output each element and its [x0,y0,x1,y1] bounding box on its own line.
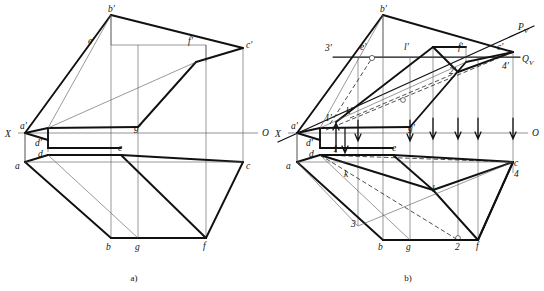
label-g-prime-b: g' [408,123,416,133]
label-b-prime-a: b' [108,4,116,14]
label-g-a: g [135,242,140,252]
dashed-aprime-cprime-aux [326,52,513,130]
marker-point-mid [401,98,406,103]
diagram-a: X O b' e' f' c' a' g' d' d e a c b g f [4,4,269,252]
label-1-prime-b: 1' [325,113,333,123]
axis-label-o-a: O [262,128,269,138]
drawing-root: X O b' e' f' c' a' g' d' d e a c b g f [0,0,544,291]
label-f-prime-a: f' [188,36,194,46]
label-d-prime-b: d' [306,138,314,148]
marker-point-3prime [369,55,374,60]
plan-d-l-b [320,155,433,190]
plan-diag-3-c-b [358,162,513,226]
arrow-down-2 [455,118,461,139]
label-4-b: 4 [514,169,519,179]
plan-e-c-b [393,155,513,162]
plan-f-c [206,162,243,238]
label-b-a: b [106,242,111,252]
label-c-b: c [514,158,519,168]
edge-gprime-fprime [138,62,196,127]
edge-vertex-gprime [48,127,138,128]
axis-label-o-b: O [532,128,539,138]
label-trace-qv: QV [522,54,534,67]
caption-a: a) [131,273,138,283]
plan-e-f-diag [121,155,206,238]
label-4-prime-b: 4' [502,61,510,71]
label-a-prime-b: a' [291,121,299,131]
label-d-a: d [38,149,43,159]
label-e-prime-b: e' [360,42,367,52]
arrow-down-1 [342,128,348,153]
label-a-b: a [286,161,291,171]
label-l-prime-b: l' [404,42,410,52]
label-1-b: 1 [333,144,338,154]
plan-e-c [121,155,243,162]
plan-a-d [25,155,48,162]
label-g-b: g [406,242,411,252]
label-f-a: f [203,241,207,251]
label-d-b: d [309,149,314,159]
arrow-down-f [475,118,481,139]
edge-bprime-cprime [111,15,243,48]
label-f-b: f [476,241,480,251]
label-b-b: b [378,242,383,252]
edge-bprime-aprime-b [297,15,383,133]
arrow-down-3 [355,120,361,141]
plan-diag-d-g-a [48,155,138,238]
label-2-b: 2 [455,242,460,252]
label-d-prime-a: d' [35,138,43,148]
edge-bprime-aprime [25,15,111,133]
label-e-b: e [392,143,396,153]
label-a-a: a [15,161,20,171]
figure-canvas: X O b' e' f' c' a' g' d' d e a c b g f [0,0,544,291]
label-e-a: e [118,143,122,153]
plan-c-f-b [478,162,513,240]
label-a-prime-a: a' [20,121,28,131]
label-c-prime-a: c' [246,40,253,50]
label-b-prime-b: b' [380,4,388,14]
plan-l-c-b [433,162,513,190]
label-g-prime-a: g' [134,123,142,133]
label-2-prime-b: 2' [449,66,457,76]
label-3-prime-b: 3' [324,43,333,53]
plan-seg-a-3-b [297,162,358,226]
plan-l-f-b [433,190,478,240]
caption-b: b) [404,273,412,283]
label-e-prime-a: e' [88,36,95,46]
label-k-prime-b: k' [346,106,353,116]
label-k-b: k [344,169,349,179]
plan-diag-d-g-b [320,155,410,240]
dashed-kprime-2prime [350,72,458,118]
arrow-down-l [430,118,436,139]
arrow-down-c [510,118,516,139]
label-l-b: l [432,184,435,194]
label-3-b: 3 [350,219,356,229]
diagram-b-labels: X O PV QV b' 3' e' l' f' c' 4' 2' k' 1' … [274,4,539,252]
axis-label-x-b: X [274,129,282,139]
axis-label-x-a: X [4,129,12,139]
edge-fprime-cprime [196,48,243,62]
diagram-b: X O PV QV b' 3' e' l' f' c' 4' 2' k' 1' … [274,4,539,252]
dashed-plan-d-2 [320,155,458,240]
diag-vertex-bprime-a [48,15,111,128]
label-c-a: c [246,161,251,171]
label-c-prime-b: c' [497,42,504,52]
